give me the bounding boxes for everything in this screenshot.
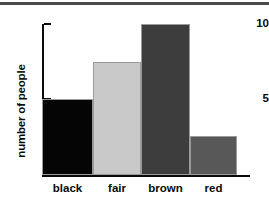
- x-axis-line: [42, 175, 250, 177]
- bar-red: [190, 136, 237, 175]
- bar-black: [42, 99, 93, 175]
- bar-chart-figure: number of people 10 5 black fair brown r…: [0, 0, 269, 206]
- bar-fair: [93, 62, 141, 175]
- x-tick-label-fair: fair: [93, 182, 141, 194]
- x-tick-label-brown: brown: [141, 182, 190, 194]
- x-tick-label-black: black: [42, 182, 93, 194]
- bar-brown: [141, 24, 190, 175]
- plot-area: [42, 24, 250, 175]
- x-tick-label-red: red: [190, 182, 237, 194]
- y-axis-title: number of people: [15, 51, 27, 171]
